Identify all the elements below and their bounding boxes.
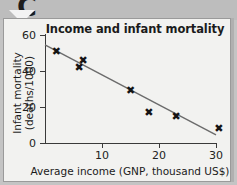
data-point: ✖ (143, 107, 154, 118)
plot-area: 60 40 20 0 10 20 30 ✖✖✖✖✖✖✖ (4, 19, 232, 183)
data-point: ✖ (125, 85, 136, 96)
data-point: ✖ (51, 46, 62, 57)
trend-line (4, 19, 232, 183)
data-point: ✖ (78, 55, 89, 66)
data-point: ✖ (171, 111, 182, 122)
figure-badge-strip: C (0, 0, 237, 20)
data-point: ✖ (213, 123, 224, 134)
x-axis-title: Average income (GNP, thousand US$) (30, 165, 230, 177)
figure-root: C Income and infant mortality 60 40 20 0… (0, 0, 237, 185)
y-axis-title: Infant mortality (deaths/1000) (11, 17, 35, 169)
chart-panel: Income and infant mortality 60 40 20 0 1… (3, 18, 231, 182)
